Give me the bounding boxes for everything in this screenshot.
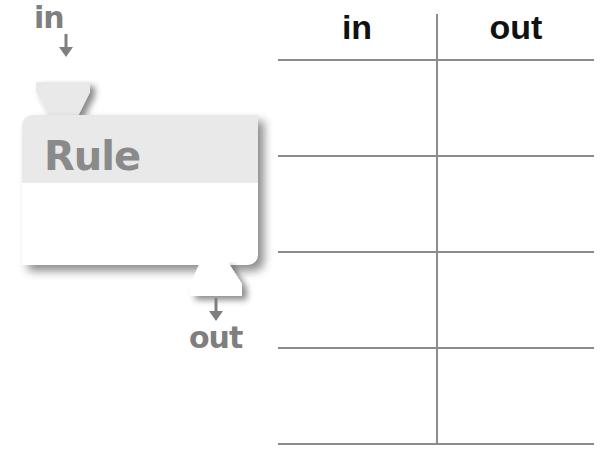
table-cell-in[interactable] xyxy=(278,350,434,442)
output-port-icon xyxy=(186,262,266,308)
table-cell-in[interactable] xyxy=(278,158,434,250)
column-header-in: in xyxy=(278,8,436,47)
table-cell-out[interactable] xyxy=(439,350,595,442)
row-rule xyxy=(278,155,594,157)
table-cell-in[interactable] xyxy=(278,62,434,154)
row-rule xyxy=(278,347,594,349)
output-arrow-icon xyxy=(206,298,226,322)
header-rule xyxy=(278,59,594,61)
output-label: out xyxy=(189,320,242,355)
row-rule xyxy=(278,251,594,253)
column-header-out: out xyxy=(437,8,595,47)
rule-title: Rule xyxy=(44,133,140,179)
table-cell-out[interactable] xyxy=(439,62,595,154)
table-cell-out[interactable] xyxy=(439,158,595,250)
input-port-icon xyxy=(30,80,110,120)
column-divider xyxy=(436,14,438,445)
in-out-table: in out xyxy=(278,0,594,456)
table-cell-out[interactable] xyxy=(439,254,595,346)
table-cell-in[interactable] xyxy=(278,254,434,346)
rule-box: Rule xyxy=(22,115,258,265)
input-arrow-icon xyxy=(56,34,76,58)
input-label: in xyxy=(34,0,64,35)
row-rule xyxy=(278,443,594,445)
